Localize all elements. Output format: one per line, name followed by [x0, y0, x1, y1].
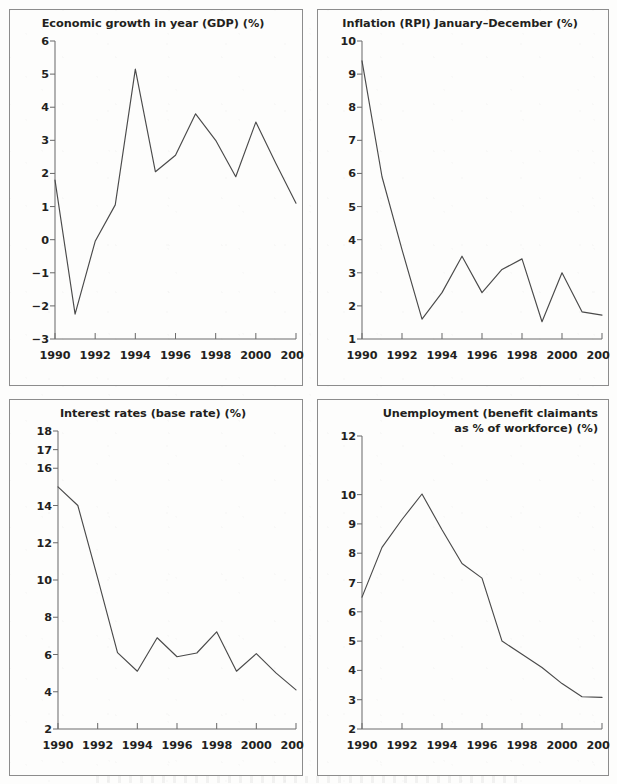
y-tick-label: 12: [340, 430, 356, 443]
y-tick-label: 14: [36, 500, 52, 513]
x-tick-label: 2000: [546, 739, 577, 752]
data-series-line: [58, 487, 296, 690]
x-tick-label: 2002: [280, 739, 304, 752]
chart-panel-interest: Interest rates (base rate) (%) 246810121…: [9, 399, 303, 776]
chart-plot-unemployment: 2345678910121990199219941996199820002002: [318, 400, 610, 777]
data-series-line: [55, 69, 296, 314]
y-tick-label: 4: [41, 101, 49, 114]
y-tick-label: 9: [348, 518, 356, 531]
y-tick-label: 4: [348, 664, 356, 677]
chart-plot-interest: 2468101214161718199019921994199619982000…: [10, 400, 304, 777]
y-tick-label: 6: [348, 167, 356, 180]
y-tick-label: 12: [36, 537, 52, 550]
x-tick-label: 2002: [586, 349, 610, 362]
x-tick-label: 1990: [346, 739, 377, 752]
y-tick-label: 4: [348, 234, 356, 247]
y-tick-label: 9: [348, 68, 356, 81]
y-tick-label: 5: [41, 68, 49, 81]
page-canvas: Economic growth in year (GDP) (%) −3−2−1…: [0, 0, 617, 784]
x-tick-label: 1990: [39, 349, 70, 362]
y-tick-label: 16: [36, 462, 52, 475]
x-tick-label: 1996: [466, 739, 497, 752]
y-tick-label: 3: [41, 134, 49, 147]
x-tick-label: 1996: [161, 739, 192, 752]
y-tick-label: 17: [36, 444, 52, 457]
y-tick-label: 6: [348, 606, 356, 619]
chart-panel-unemployment: Unemployment (benefit claimants as % of …: [317, 399, 609, 776]
y-tick-label: 18: [36, 425, 52, 438]
y-tick-label: 7: [348, 577, 356, 590]
x-tick-label: 1992: [82, 739, 113, 752]
y-tick-label: 2: [348, 300, 356, 313]
y-tick-label: 1: [348, 333, 356, 346]
y-tick-label: 8: [348, 547, 356, 560]
y-tick-label: 4: [44, 686, 52, 699]
x-tick-label: 1992: [80, 349, 111, 362]
y-tick-label: 7: [348, 134, 356, 147]
y-tick-label: 5: [348, 635, 356, 648]
x-tick-label: 1994: [122, 739, 153, 752]
x-tick-label: 1990: [42, 739, 73, 752]
y-tick-label: 5: [348, 201, 356, 214]
chart-panel-inflation: Inflation (RPI) January–December (%) 123…: [317, 9, 609, 386]
y-tick-label: 2: [348, 723, 356, 736]
x-tick-label: 1998: [506, 349, 537, 362]
y-tick-label: 6: [41, 35, 49, 48]
y-tick-label: 10: [340, 35, 356, 48]
y-tick-label: 2: [44, 723, 52, 736]
x-tick-label: 1998: [201, 739, 232, 752]
x-tick-label: 2000: [546, 349, 577, 362]
page-footer-artifact: [96, 776, 520, 783]
x-tick-label: 2002: [280, 349, 304, 362]
chart-plot-gdp: −3−2−10123456199019921994199619982000200…: [10, 10, 304, 387]
x-tick-label: 1994: [426, 739, 457, 752]
y-tick-label: −3: [32, 333, 49, 346]
x-tick-label: 1994: [426, 349, 457, 362]
chart-panel-gdp: Economic growth in year (GDP) (%) −3−2−1…: [9, 9, 303, 386]
y-tick-label: 6: [44, 649, 52, 662]
y-tick-label: 3: [348, 694, 356, 707]
x-tick-label: 1992: [386, 739, 417, 752]
x-tick-label: 1990: [346, 349, 377, 362]
y-tick-label: 0: [41, 234, 49, 247]
x-tick-label: 1996: [466, 349, 497, 362]
x-tick-label: 1992: [386, 349, 417, 362]
y-tick-label: 8: [348, 101, 356, 114]
x-tick-label: 1998: [200, 349, 231, 362]
x-tick-label: 1996: [160, 349, 191, 362]
y-tick-label: 2: [41, 167, 49, 180]
x-tick-label: 1998: [506, 739, 537, 752]
x-tick-label: 1994: [120, 349, 151, 362]
y-tick-label: 3: [348, 267, 356, 280]
data-series-line: [362, 61, 602, 322]
y-tick-label: 8: [44, 611, 52, 624]
x-tick-label: 2000: [241, 739, 272, 752]
x-tick-label: 2000: [240, 349, 271, 362]
y-tick-label: −1: [32, 267, 49, 280]
chart-plot-inflation: 123456789101990199219941996199820002002: [318, 10, 610, 387]
y-tick-label: 1: [41, 201, 49, 214]
y-tick-label: −2: [32, 300, 49, 313]
data-series-line: [362, 494, 602, 697]
x-tick-label: 2002: [586, 739, 610, 752]
y-tick-label: 10: [36, 574, 52, 587]
y-tick-label: 10: [340, 489, 356, 502]
